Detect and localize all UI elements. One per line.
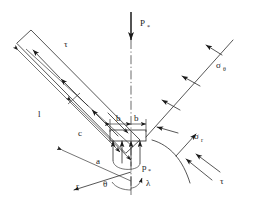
strut-shear-arrow-1 <box>33 50 60 78</box>
figure-canvas: P * p * σ θ σ r τ τ l c a b b θ λ r <box>0 0 253 200</box>
label-shear-stress-left: τ <box>64 39 68 49</box>
label-angle-lambda: λ <box>146 178 151 188</box>
label-half-width-right: b <box>134 113 139 123</box>
labels-group: P * p * σ θ σ r τ τ l c a b b θ λ r <box>38 18 226 191</box>
label-hoop-stress: σ <box>216 60 221 70</box>
label-length-c: c <box>78 128 82 138</box>
curved-face-group <box>152 134 220 183</box>
dimension-tick-c <box>68 93 80 104</box>
label-applied-load: P <box>140 18 145 28</box>
tau-right-arrow-2 <box>196 154 220 172</box>
dimension-line-l <box>18 50 120 152</box>
label-length-a: a <box>96 156 100 166</box>
label-length-l: l <box>38 109 41 119</box>
label-radial-stress-subscript: r <box>201 137 203 143</box>
label-applied-load-subscript: * <box>147 24 150 30</box>
label-radial-stress: σ <box>194 131 199 141</box>
label-angle-theta: θ <box>103 179 107 189</box>
label-half-width-left: b <box>116 113 121 123</box>
strut-group <box>17 30 140 181</box>
label-reaction-pressure: p <box>142 162 147 172</box>
angle-group <box>74 172 142 195</box>
label-reaction-pressure-subscript: * <box>148 168 151 174</box>
wedge-face-line <box>146 40 233 137</box>
wedge-face-group <box>146 40 233 137</box>
bearing-block <box>110 130 146 141</box>
pressure-bracket <box>113 160 140 169</box>
label-hoop-stress-subscript: θ <box>223 66 226 72</box>
stress-diagram: P * p * σ θ σ r τ τ l c a b b θ λ r <box>0 0 253 200</box>
label-radial-axis-r: r <box>76 181 79 191</box>
sigma-theta-arrow-4 <box>157 127 178 133</box>
sigma-theta-arrow-2 <box>182 76 200 86</box>
tau-right-arrow-1 <box>186 159 212 180</box>
sigma-theta-arrow-1 <box>206 45 222 55</box>
sigma-theta-arrow-3 <box>162 100 180 110</box>
angle-arc-theta <box>112 182 131 190</box>
angle-arc-lambda <box>131 178 142 188</box>
sigma-r-arrow <box>176 134 196 156</box>
label-shear-stress-right: τ <box>220 176 224 186</box>
